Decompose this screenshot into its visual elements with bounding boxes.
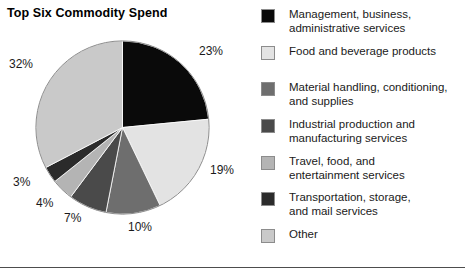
legend-item[interactable]: Travel, food, and entertainment services (261, 155, 405, 182)
pie-label-food-beverage: 19% (210, 163, 234, 177)
legend-item-label: Material handling, conditioning, and sup… (289, 81, 448, 108)
pie-chart (35, 40, 210, 215)
legend-item[interactable]: Other (261, 228, 318, 243)
pie-label-management: 23% (199, 44, 223, 58)
pie-label-industrial: 7% (64, 211, 81, 225)
chart-figure: Top Six Commodity Spend 23% 19% 10% 7% 4… (0, 0, 465, 276)
page-title: Top Six Commodity Spend (7, 6, 167, 20)
pie-label-other: 32% (9, 57, 33, 71)
legend-item-label: Management, business, administrative ser… (289, 8, 411, 35)
pie-slice (123, 41, 209, 128)
legend-item[interactable]: Transportation, storage, and mail servic… (261, 191, 411, 218)
pie-slice-group (36, 41, 209, 214)
pie-label-travel: 4% (36, 196, 53, 210)
legend-swatch-icon (261, 119, 275, 133)
pie-chart-svg (35, 40, 210, 215)
pie-label-material: 10% (128, 220, 152, 234)
footer-divider (0, 267, 465, 268)
legend-item[interactable]: Material handling, conditioning, and sup… (261, 81, 448, 108)
legend-item-label: Transportation, storage, and mail servic… (289, 191, 411, 218)
legend-swatch-icon (261, 229, 275, 243)
legend-swatch-icon (261, 82, 275, 96)
legend-item-label: Industrial production and manufacturing … (289, 118, 415, 145)
legend-swatch-icon (261, 46, 275, 60)
legend-item-label: Food and beverage products (289, 45, 436, 59)
legend-item[interactable]: Management, business, administrative ser… (261, 8, 411, 35)
legend-item-label: Travel, food, and entertainment services (289, 155, 405, 182)
legend-item[interactable]: Industrial production and manufacturing … (261, 118, 415, 145)
legend-swatch-icon (261, 156, 275, 170)
legend-swatch-icon (261, 9, 275, 23)
legend-item[interactable]: Food and beverage products (261, 45, 436, 60)
pie-label-transportation: 3% (13, 175, 30, 189)
legend-swatch-icon (261, 192, 275, 206)
legend-item-label: Other (289, 228, 318, 242)
